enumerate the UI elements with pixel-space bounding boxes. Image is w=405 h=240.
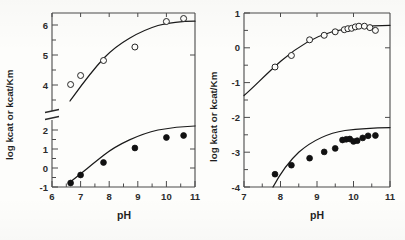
x-tick-label-9-left: 9 [135,191,140,202]
x-tick-label-8-left: 8 [107,191,112,202]
series-open-circles-right [272,23,378,70]
series-open-circles-left [68,16,187,88]
figure-container: log kcat or kcat/Km 6 5 [0,0,405,240]
x-tick-label-6-left: 6 [49,191,54,202]
y-tick-label-neg3-right: -3 [232,147,240,158]
y-tick-label-neg1-left: -1 [40,182,49,193]
chart-panel-left: log kcat or kcat/Km 6 5 [0,0,203,240]
x-ticks-right [244,13,390,187]
x-tick-label-8-right: 8 [278,191,283,202]
y-tick-label-6-left: 6 [43,20,48,31]
y-tick-label-4-left: 4 [43,80,49,91]
x-tick-label-7-left: 7 [78,191,83,202]
x-axis-title-right: pH [310,209,324,221]
y-tick-label-5-left: 5 [43,50,49,61]
y-tick-label-1-left: 1 [43,144,49,155]
left-panel-svg: log kcat or kcat/Km 6 5 [0,0,203,240]
right-panel-svg: log kcat or kcat/Km [203,0,405,240]
y-tick-label-0-right: 0 [235,42,240,53]
y-ticks-lower-left [52,130,58,187]
y-tick-label-neg4-right: -4 [232,182,241,193]
y-tick-label-0-left: 0 [43,163,48,174]
x-tick-label-10-left: 10 [161,191,172,202]
x-tick-label-11-left: 11 [190,191,201,202]
fit-curve-lower-left [70,126,195,182]
x-axis-title-left: pH [117,209,131,221]
series-filled-circles-right [272,133,378,178]
y-tick-label-2-left: 2 [43,125,48,136]
fit-curve-upper-right [244,25,390,95]
x-tick-label-9-right: 9 [314,191,319,202]
chart-panel-right: log kcat or kcat/Km [203,0,405,240]
y-axis-title-right: log kcat or kcat/Km [208,71,219,162]
x-tick-label-10-right: 10 [348,191,359,202]
y-ticks-right [244,13,390,187]
x-tick-label-11-right: 11 [385,191,396,202]
fit-curve-upper-left [70,21,195,101]
y-ticks-upper-left [52,25,58,100]
x-ticks-left [52,13,195,187]
y-axis-title-left: log kcat or kcat/Km [4,69,15,160]
y-tick-label-neg2-right: -2 [232,112,240,123]
y-axis-break-left [45,110,59,120]
y-tick-label-neg1-right: -1 [232,77,241,88]
y-tick-label-1-right: 1 [235,8,241,19]
x-tick-label-7-right: 7 [241,191,246,202]
